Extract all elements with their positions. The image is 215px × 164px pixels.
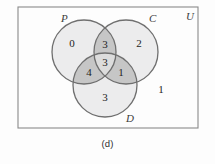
region-count-p-and-c: 3 <box>102 38 108 50</box>
region-count-d-only: 3 <box>102 91 108 103</box>
universe-label: U <box>186 10 195 22</box>
figure-caption: (d) <box>0 138 215 149</box>
region-count-p-and-d: 4 <box>86 66 92 78</box>
region-count-c-and-d: 1 <box>118 66 124 78</box>
region-count-outside: 1 <box>158 83 164 95</box>
set-label-p: P <box>60 12 68 24</box>
set-label-d: D <box>125 112 134 124</box>
region-count-p-c-d: 3 <box>102 56 108 68</box>
region-count-p-only: 0 <box>69 37 75 49</box>
venn-diagram-figure: 0 2 3 3 4 1 3 1 P C D U (d) <box>0 0 215 164</box>
region-count-c-only: 2 <box>136 37 142 49</box>
set-label-c: C <box>149 12 157 24</box>
